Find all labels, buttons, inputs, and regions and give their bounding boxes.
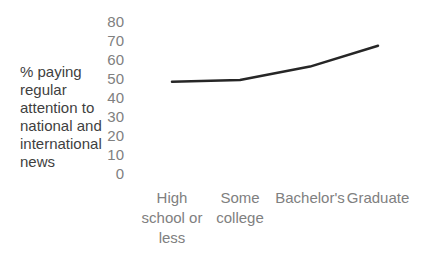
chart-plot-area — [0, 0, 423, 256]
data-line-series — [172, 46, 378, 82]
line-chart: % paying regular attention to national a… — [0, 0, 423, 256]
